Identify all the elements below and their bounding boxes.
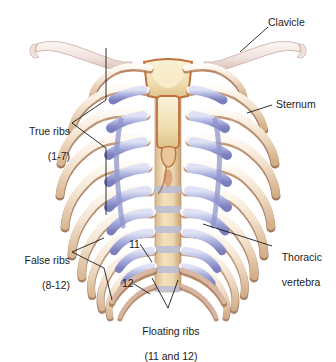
label-floating-ribs: Floating ribs (11 and 12) (108, 312, 228, 362)
label-floating-ribs-line2: (11 and 12) (144, 350, 197, 362)
label-true-ribs-line2: (1-7) (48, 150, 70, 162)
label-rib-number-12: 12 (122, 277, 134, 289)
label-thoracic-vertebra: Thoracic vertebra (276, 238, 322, 288)
label-false-ribs: False ribs (8-12) (6, 241, 70, 291)
label-rib-number-11: 11 (129, 238, 140, 250)
label-false-ribs-line1: False ribs (24, 254, 70, 266)
label-clavicle: Clavicle (268, 16, 305, 29)
label-true-ribs: True ribs (1-7) (8, 112, 70, 162)
label-floating-ribs-line1: Floating ribs (142, 325, 199, 337)
label-false-ribs-line2: (8-12) (42, 279, 70, 291)
label-true-ribs-line1: True ribs (29, 125, 70, 137)
label-thoracic-vertebra-line2: vertebra (282, 276, 321, 288)
label-thoracic-vertebra-line1: Thoracic (282, 251, 322, 263)
label-sternum: Sternum (276, 98, 316, 111)
